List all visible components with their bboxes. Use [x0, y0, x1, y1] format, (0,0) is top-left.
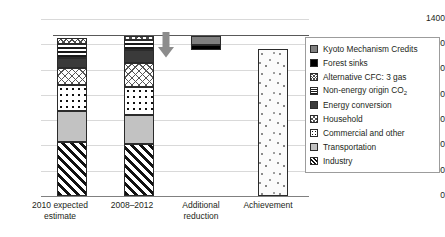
- legend-swatch-icon: [310, 45, 318, 53]
- plot-area: [41, 14, 309, 201]
- legend-swatch-icon: [310, 73, 318, 81]
- legend-swatch-icon: [310, 101, 318, 109]
- legend-swatch-icon: [310, 87, 318, 95]
- legend-label: Forest sinks: [323, 59, 368, 68]
- segment-energy-conversion[interactable]: [124, 50, 154, 63]
- legend-label: Commercial and other: [323, 129, 405, 138]
- legend-label: Industry: [323, 157, 353, 166]
- segment-industry[interactable]: [57, 142, 87, 196]
- legend-item-forest-sinks[interactable]: Forest sinks: [310, 56, 435, 70]
- chart-legend: Kyoto Mechanism Credits Forest sinks Alt…: [305, 37, 440, 173]
- segment-transportation[interactable]: [124, 115, 154, 144]
- x-label-line-2: estimate: [14, 211, 106, 222]
- x-label-achievement: Achievement: [228, 200, 308, 211]
- x-label-line-1: Achievement: [228, 200, 308, 211]
- gridline-1400: [41, 19, 309, 20]
- legend-label: Non-energy origin CO2: [323, 86, 407, 96]
- legend-item-commercial-and-other[interactable]: Commercial and other: [310, 126, 435, 140]
- legend-label-subscript: 2: [404, 90, 407, 96]
- legend-item-household[interactable]: Household: [310, 112, 435, 126]
- bar-achievement[interactable]: [258, 49, 288, 196]
- x-label-2010-expected-estimate: 2010 expected estimate: [14, 200, 106, 221]
- legend-label: Kyoto Mechanism Credits: [323, 45, 418, 54]
- segment-alternative-cfc[interactable]: [124, 36, 154, 40]
- legend-label: Alternative CFC: 3 gas: [323, 73, 406, 82]
- reduction-arrow-icon: [157, 32, 175, 58]
- legend-item-industry[interactable]: Industry: [310, 154, 435, 168]
- target-level-line: [53, 35, 309, 36]
- segment-non-energy-origin-co2[interactable]: [57, 44, 87, 59]
- legend-item-non-energy-origin-co2[interactable]: Non-energy origin CO2: [310, 84, 435, 98]
- segment-alternative-cfc[interactable]: [57, 38, 87, 44]
- segment-forest-sinks[interactable]: [191, 45, 221, 50]
- axis-baseline-zero: [41, 196, 309, 197]
- x-label-line-2: reduction: [163, 211, 239, 222]
- segment-kyoto-mechanism-credits[interactable]: [191, 36, 221, 45]
- x-label-2008-2012: 2008–2012: [97, 200, 167, 211]
- legend-swatch-icon: [310, 157, 318, 165]
- segment-non-energy-origin-co2[interactable]: [124, 40, 154, 50]
- x-label-line-1: 2008–2012: [97, 200, 167, 211]
- segment-achievement-total[interactable]: [258, 49, 288, 196]
- legend-item-alternative-cfc-3-gas[interactable]: Alternative CFC: 3 gas: [310, 70, 435, 84]
- bar-2010-expected-estimate[interactable]: [57, 38, 87, 196]
- legend-swatch-icon: [310, 59, 318, 67]
- legend-item-transportation[interactable]: Transportation: [310, 140, 435, 154]
- segment-industry[interactable]: [124, 144, 154, 196]
- bar-2008-2012[interactable]: [124, 35, 154, 196]
- x-label-line-1: 2010 expected: [14, 200, 106, 211]
- legend-item-energy-conversion[interactable]: Energy conversion: [310, 98, 435, 112]
- legend-label: Household: [323, 115, 363, 124]
- bar-additional-reduction[interactable]: [191, 35, 221, 196]
- y-tick-label-0: 0: [409, 191, 445, 200]
- legend-swatch-icon: [310, 143, 318, 151]
- legend-label: Energy conversion: [323, 101, 392, 110]
- segment-energy-conversion[interactable]: [57, 58, 87, 68]
- segment-household[interactable]: [124, 63, 154, 87]
- legend-swatch-icon: [310, 129, 318, 137]
- segment-commercial-and-other[interactable]: [124, 87, 154, 114]
- segment-household[interactable]: [57, 68, 87, 84]
- legend-item-kyoto-mechanism-credits[interactable]: Kyoto Mechanism Credits: [310, 42, 435, 56]
- y-tick-label-1400: 1400: [409, 14, 445, 23]
- chart-container: 1400 1200 1000 800 600 400 200 0: [0, 0, 445, 237]
- segment-transportation[interactable]: [57, 111, 87, 141]
- legend-swatch-icon: [310, 115, 318, 123]
- legend-label: Transportation: [323, 143, 376, 152]
- segment-commercial-and-other[interactable]: [57, 85, 87, 112]
- legend-label-text: Non-energy origin CO: [323, 85, 404, 95]
